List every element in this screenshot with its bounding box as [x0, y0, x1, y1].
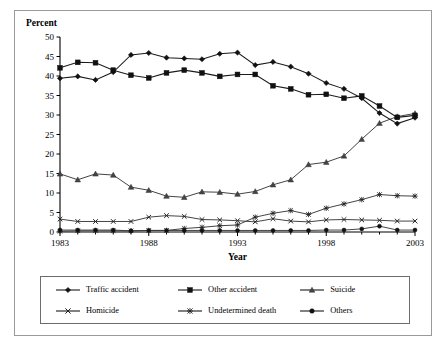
- data-point-square: [93, 60, 98, 65]
- legend-label: Suicide: [330, 285, 355, 294]
- data-point-asterisk: [395, 193, 400, 198]
- data-point-square: [146, 76, 151, 81]
- legend-item-others[interactable]: Others: [299, 306, 403, 316]
- legend-label: Homicide: [86, 306, 119, 315]
- data-point-circle: [58, 228, 62, 232]
- data-point-circle: [147, 228, 151, 232]
- data-point-diamond: [341, 86, 346, 91]
- data-point-square: [377, 104, 382, 109]
- y-axis-tick-label: 30: [45, 110, 55, 120]
- data-point-asterisk: [270, 211, 275, 216]
- y-axis-tick-label: 40: [45, 71, 55, 81]
- data-point-asterisk: [412, 193, 417, 198]
- data-point-square: [253, 72, 258, 77]
- data-point-square: [235, 72, 240, 77]
- x-axis-tick-label: 1993: [229, 238, 248, 248]
- data-point-square: [324, 92, 329, 97]
- data-point-square: [359, 93, 364, 98]
- data-point-circle: [360, 227, 364, 231]
- y-axis-tick-label: 20: [45, 149, 55, 159]
- legend-item-homicide[interactable]: Homicide: [55, 306, 177, 316]
- y-axis-tick-label: 5: [50, 208, 55, 218]
- data-point-square: [75, 60, 80, 65]
- data-point-circle: [165, 228, 169, 232]
- data-point-circle: [200, 228, 204, 232]
- series-other-accident: [58, 60, 418, 120]
- data-point-diamond: [306, 71, 311, 76]
- data-point-diamond: [270, 59, 275, 64]
- data-point-circle: [395, 228, 399, 232]
- data-point-square: [111, 68, 116, 73]
- data-point-diamond: [75, 74, 80, 79]
- y-axis-tick-label: 45: [45, 52, 55, 62]
- data-point-square: [306, 92, 311, 97]
- data-point-diamond: [93, 77, 98, 82]
- data-point-circle: [94, 228, 98, 232]
- y-axis-title: Percent: [26, 18, 58, 28]
- data-point-square: [164, 70, 169, 75]
- y-axis-tick-label: 10: [45, 188, 55, 198]
- y-axis-tick-label: 25: [45, 130, 55, 140]
- data-point-circle: [378, 224, 382, 228]
- data-point-circle: [413, 228, 417, 232]
- data-point-square: [217, 74, 222, 79]
- y-axis-tick-label: 0: [50, 227, 55, 237]
- data-point-diamond: [65, 287, 70, 292]
- legend-marker-circle-icon: [299, 306, 325, 316]
- data-point-square: [271, 83, 276, 88]
- series-undetermined-death: [57, 192, 417, 234]
- data-point-circle: [111, 228, 115, 232]
- data-point-asterisk: [306, 212, 311, 217]
- data-point-asterisk: [217, 223, 222, 228]
- legend-marker-diamond-icon: [55, 285, 81, 295]
- data-point-diamond: [57, 76, 62, 81]
- data-point-diamond: [324, 80, 329, 85]
- series-path: [60, 113, 415, 197]
- data-point-circle: [271, 228, 275, 232]
- data-point-circle: [307, 228, 311, 232]
- x-axis-title: Year: [228, 252, 248, 262]
- chart-legend: Traffic accidentOther accidentSuicideHom…: [40, 276, 410, 324]
- legend-marker-asterisk-icon: [177, 306, 203, 316]
- chart-page: 5045403530252015105019831988199319982003…: [0, 0, 448, 347]
- legend-label: Others: [330, 306, 352, 315]
- series-suicide: [57, 111, 418, 200]
- data-point-diamond: [182, 56, 187, 61]
- legend-marker-x-icon: [55, 306, 81, 316]
- x-axis-tick-label: 1998: [317, 238, 336, 248]
- y-axis-tick-label: 15: [45, 169, 55, 179]
- data-point-circle: [253, 228, 257, 232]
- data-point-square: [200, 70, 205, 75]
- data-point-square: [395, 115, 400, 120]
- legend-item-suicide[interactable]: Suicide: [299, 285, 403, 295]
- data-point-asterisk: [324, 206, 329, 211]
- series-path: [60, 53, 415, 124]
- legend-marker-triangle-icon: [299, 285, 325, 295]
- data-point-asterisk: [341, 201, 346, 206]
- y-axis-tick-label: 35: [45, 91, 55, 101]
- legend-item-other-accident[interactable]: Other accident: [177, 285, 299, 295]
- x-axis-tick-label: 1983: [51, 238, 70, 248]
- data-point-diamond: [288, 64, 293, 69]
- data-point-circle: [324, 228, 328, 232]
- data-point-square: [413, 113, 418, 118]
- legend-marker-square-icon: [177, 285, 203, 295]
- data-point-circle: [289, 228, 293, 232]
- data-point-circle: [182, 228, 186, 232]
- data-point-asterisk: [187, 308, 193, 314]
- legend-item-undetermined-death[interactable]: Undetermined death: [177, 306, 299, 316]
- data-point-circle: [76, 228, 80, 232]
- data-point-asterisk: [377, 192, 382, 197]
- data-point-circle: [310, 308, 315, 313]
- legend-label: Undetermined death: [208, 306, 276, 315]
- data-point-square: [288, 86, 293, 91]
- data-point-square: [342, 96, 347, 101]
- data-point-square: [182, 68, 187, 73]
- data-point-diamond: [199, 57, 204, 62]
- data-point-circle: [129, 229, 133, 233]
- data-point-diamond: [395, 121, 400, 126]
- y-axis-tick-label: 50: [45, 32, 55, 42]
- legend-item-traffic-accident[interactable]: Traffic accident: [55, 285, 177, 295]
- data-point-square: [188, 287, 193, 292]
- data-point-triangle: [128, 184, 134, 189]
